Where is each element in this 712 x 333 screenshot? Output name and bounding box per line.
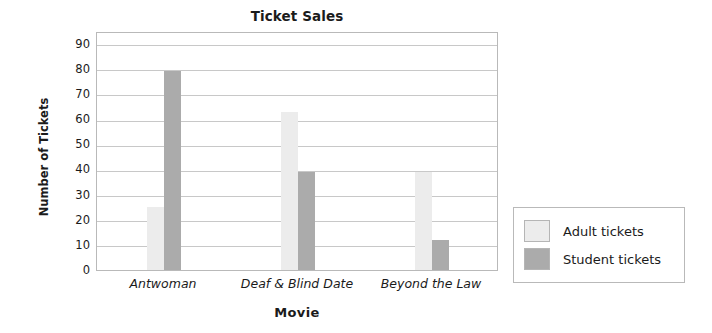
y-tick-label: 50 [50,139,90,151]
y-tick-label: 70 [50,89,90,101]
x-tick-label: Antwoman [96,276,230,291]
legend-label: Adult tickets [563,224,644,239]
y-tick-label: 0 [50,265,90,277]
bar-adult-0 [147,207,164,270]
chart-legend: Adult ticketsStudent tickets [513,207,685,283]
x-axis-tick-labels: AntwomanDeaf & Blind DateBeyond the Law [96,276,498,298]
y-axis-tick-labels: 0102030405060708090 [46,32,90,271]
x-tick-label: Beyond the Law [364,276,498,291]
ticket-sales-bar-chart: Ticket Sales Number of Tickets 010203040… [0,0,712,333]
y-tick-label: 90 [50,39,90,51]
legend-swatch-icon [524,248,550,270]
legend-item[interactable]: Adult tickets [524,217,674,245]
chart-title: Ticket Sales [96,8,498,24]
bar-student-0 [164,71,181,270]
y-tick-label: 40 [50,164,90,176]
gridline [97,95,497,96]
y-tick-label: 20 [50,215,90,227]
bar-adult-1 [281,112,298,270]
bar-student-1 [298,172,315,270]
x-axis-title: Movie [96,305,498,320]
x-tick-label: Deaf & Blind Date [230,276,364,291]
plot-area [96,32,498,271]
y-tick-label: 30 [50,190,90,202]
bar-adult-2 [415,172,432,270]
legend-item[interactable]: Student tickets [524,245,674,273]
gridline [97,70,497,71]
bar-student-2 [432,240,449,270]
legend-swatch-icon [524,220,550,242]
y-tick-label: 60 [50,114,90,126]
y-tick-label: 10 [50,240,90,252]
legend-label: Student tickets [563,252,661,267]
y-tick-label: 80 [50,64,90,76]
gridline [97,45,497,46]
